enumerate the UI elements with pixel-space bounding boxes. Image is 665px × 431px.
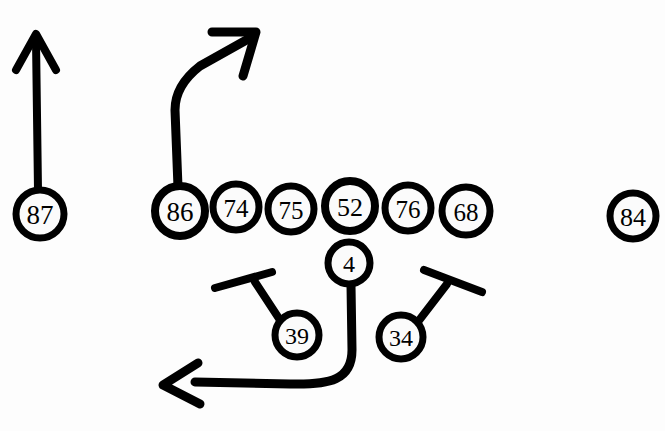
route-line-86 [175, 38, 250, 187]
play-canvas: 878674755276684393484 [0, 0, 665, 431]
player-74[interactable]: 74 [213, 184, 259, 230]
route-4[interactable] [163, 285, 352, 404]
route-line-39 [255, 282, 280, 320]
block-bar-icon-34 [424, 270, 482, 292]
player-number-86: 86 [167, 197, 194, 227]
route-86[interactable] [175, 32, 256, 187]
player-number-34: 34 [389, 325, 413, 351]
player-number-75: 75 [279, 197, 304, 224]
route-34[interactable] [417, 270, 482, 323]
player-number-84: 84 [620, 203, 646, 232]
player-87[interactable]: 87 [16, 190, 64, 238]
player-number-87: 87 [27, 200, 54, 230]
route-39[interactable] [215, 272, 280, 320]
player-68[interactable]: 68 [442, 187, 490, 235]
player-4[interactable]: 4 [328, 242, 370, 284]
player-84[interactable]: 84 [610, 193, 656, 239]
player-number-4: 4 [343, 251, 355, 277]
route-line-34 [417, 284, 447, 323]
block-bar-icon-39 [215, 272, 272, 288]
player-34[interactable]: 34 [379, 315, 423, 359]
player-number-52: 52 [337, 193, 363, 222]
player-number-68: 68 [454, 199, 479, 226]
players-layer: 878674755276684393484 [16, 181, 656, 359]
player-39[interactable]: 39 [275, 313, 319, 357]
player-number-76: 76 [396, 196, 421, 223]
player-86[interactable]: 86 [155, 186, 205, 236]
route-line-87 [36, 40, 38, 190]
football-play-diagram: 878674755276684393484 [0, 0, 665, 431]
route-87[interactable] [16, 34, 56, 190]
player-76[interactable]: 76 [385, 185, 431, 231]
player-52[interactable]: 52 [325, 181, 375, 231]
player-number-74: 74 [224, 195, 250, 222]
player-number-39: 39 [285, 323, 309, 349]
player-75[interactable]: 75 [268, 186, 314, 232]
